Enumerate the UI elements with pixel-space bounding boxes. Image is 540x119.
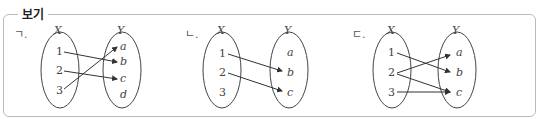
set-y-label: Y [452, 24, 461, 37]
x-element: 2 [388, 66, 395, 79]
y-element: b [287, 66, 294, 79]
diagram-label: ㄱ. [14, 28, 28, 41]
y-element: c [287, 86, 293, 99]
set-x-label: X [216, 24, 226, 37]
x-element: 1 [219, 47, 226, 60]
y-element: a [456, 46, 463, 59]
diagram-label: ㄴ. [185, 28, 199, 41]
y-element: c [456, 86, 462, 99]
x-element: 1 [56, 45, 63, 58]
x-element: 3 [56, 84, 63, 97]
x-element: 2 [56, 64, 63, 77]
set-y-label: Y [284, 24, 293, 37]
set-y-label: Y [117, 24, 126, 37]
y-element: c [120, 72, 126, 85]
y-element: a [287, 46, 294, 59]
set-x-label: X [386, 24, 396, 37]
diagram-1: ㄱ. X Y 1 2 3 a b c d [14, 24, 141, 108]
diagram-2: ㄴ. X Y 1 2 3 a b c [185, 24, 308, 108]
mapping-diagrams: ㄱ. X Y 1 2 3 a b c d ㄴ. X Y 1 2 3 a b c … [0, 0, 540, 119]
x-element: 3 [219, 86, 226, 99]
x-element: 3 [388, 86, 395, 99]
set-x-label: X [53, 24, 63, 37]
y-element: b [120, 55, 127, 68]
x-element: 1 [388, 46, 395, 59]
y-element: a [120, 40, 127, 53]
x-element: 2 [219, 66, 226, 79]
diagram-3: ㄷ. X Y 1 2 3 a b c [352, 24, 476, 108]
y-element: d [120, 88, 127, 101]
diagram-label: ㄷ. [352, 28, 366, 41]
y-element: b [456, 66, 463, 79]
